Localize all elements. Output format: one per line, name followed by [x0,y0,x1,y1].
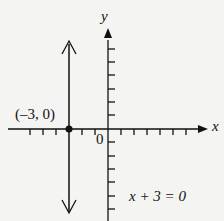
x-axis-label: x [212,118,219,135]
graph: y x 0 (–3, 0) x + 3 = 0 [0,0,224,221]
point-marker [66,126,73,133]
origin-label: 0 [96,131,104,148]
x-arrow-icon [198,125,208,133]
equation-label: x + 3 = 0 [129,188,186,205]
y-axis-label: y [101,8,108,25]
y-arrow-icon [104,28,112,38]
point-label: (–3, 0) [15,106,55,123]
